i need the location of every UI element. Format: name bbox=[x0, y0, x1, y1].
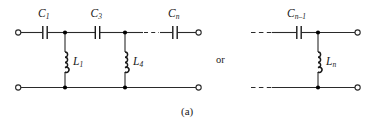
right-circuit-group bbox=[251, 26, 360, 90]
junction-dot-top-2 bbox=[123, 30, 127, 34]
terminal-output-bottom bbox=[196, 85, 201, 90]
terminal-right-output-bottom bbox=[355, 85, 360, 90]
junction-dot-bottom-1 bbox=[63, 85, 67, 89]
label-inductor-ln: Ln bbox=[326, 56, 336, 68]
terminal-input-bottom bbox=[16, 85, 21, 90]
shunt-branch-l1 bbox=[65, 33, 69, 88]
inductor-l1-coil bbox=[65, 52, 69, 72]
label-capacitor-c1: C1 bbox=[38, 8, 49, 20]
inductor-l4-coil bbox=[125, 52, 129, 72]
terminal-right-output-top bbox=[355, 30, 360, 35]
terminal-input-top bbox=[16, 30, 21, 35]
capacitor-c3 bbox=[95, 26, 99, 39]
junction-dot-right-bottom bbox=[316, 85, 320, 89]
capacitor-cn-minus-1 bbox=[297, 26, 301, 39]
figure-caption: (a) bbox=[181, 106, 193, 117]
capacitor-cn bbox=[173, 26, 177, 39]
inductor-ln-coil bbox=[318, 52, 322, 72]
capacitor-c1 bbox=[43, 26, 47, 39]
shunt-branch-l4 bbox=[125, 33, 129, 88]
shunt-branch-ln bbox=[318, 33, 322, 88]
junction-dot-right-top bbox=[316, 30, 320, 34]
label-capacitor-c3: C3 bbox=[91, 8, 102, 20]
label-inductor-l4: L4 bbox=[133, 56, 143, 68]
left-circuit-group bbox=[16, 26, 202, 90]
circuit-figure: C1 C3 Cn L1 L4 or Cn–1 Ln (a) bbox=[0, 0, 379, 129]
junction-dot-bottom-2 bbox=[123, 85, 127, 89]
label-capacitor-cn: Cn bbox=[168, 8, 179, 20]
junction-dot-top-1 bbox=[63, 30, 67, 34]
terminal-output-top bbox=[196, 30, 201, 35]
label-inductor-l1: L1 bbox=[73, 56, 83, 68]
connector-or-text: or bbox=[216, 55, 225, 66]
label-capacitor-cn-minus-1: Cn–1 bbox=[287, 8, 306, 20]
